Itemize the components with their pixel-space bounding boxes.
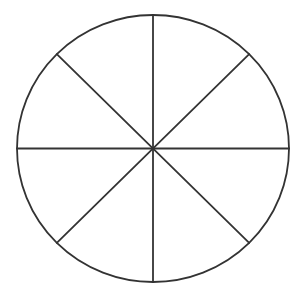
divided-circle-diagram (0, 0, 302, 294)
page: { "figure": { "description": "Circle div… (0, 0, 302, 294)
figure-canvas (0, 0, 302, 294)
